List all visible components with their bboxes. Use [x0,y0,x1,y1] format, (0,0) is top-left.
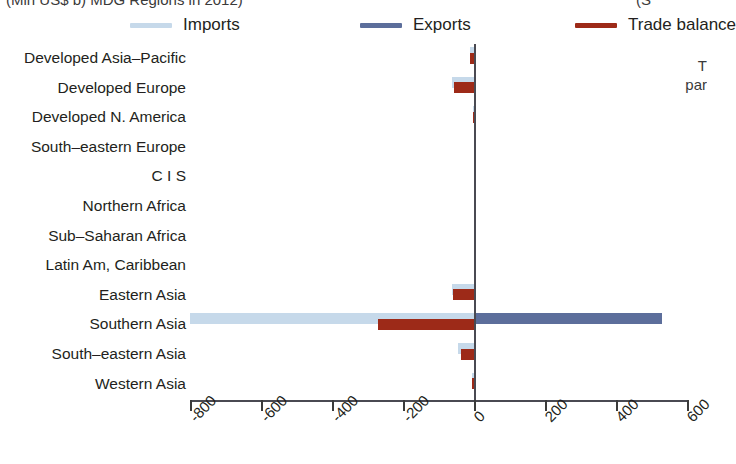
legend-item-imports[interactable]: Imports [130,12,240,38]
legend-swatch-exports [360,23,402,28]
category-label: Latin Am, Caribbean [0,256,186,274]
legend-swatch-trade-balance [575,23,617,28]
figure-title-strip: (Mln US$ b) MDG Regions in 2012) (S [0,0,709,10]
plot-area [190,44,687,400]
category-label: South–eastern Europe [0,138,186,156]
figure-title-right: (S [636,0,651,8]
x-axis-line [190,400,687,402]
legend-swatch-imports [130,23,172,28]
category-label: Sub–Saharan Africa [0,227,186,245]
legend-label-exports: Exports [413,15,471,35]
zero-axis-line [474,44,476,400]
category-label: Eastern Asia [0,286,186,304]
category-label: Developed Europe [0,79,186,97]
category-label: Southern Asia [0,315,186,333]
category-label: South–eastern Asia [0,345,186,363]
chart-legend: Imports Exports Trade balance [0,12,709,38]
category-label: C I S [0,167,186,185]
category-label: Developed N. America [0,108,186,126]
legend-label-imports: Imports [183,15,240,35]
legend-item-trade-balance[interactable]: Trade balance [575,12,736,38]
legend-item-exports[interactable]: Exports [360,12,471,38]
figure-title-left: (Mln US$ b) MDG Regions in 2012) [6,0,243,8]
category-label: Western Asia [0,375,186,393]
category-label: Northern Africa [0,197,186,215]
x-tick-label: 0 [470,407,488,425]
legend-label-trade-balance: Trade balance [628,15,736,35]
category-label: Developed Asia–Pacific [0,49,186,67]
